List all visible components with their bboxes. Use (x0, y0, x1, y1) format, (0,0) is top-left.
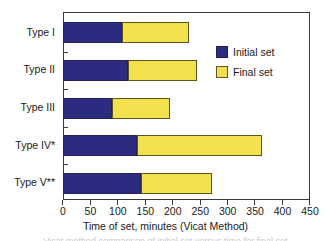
bar-segment-final-set (122, 22, 190, 43)
bar-segment-final-set (137, 135, 262, 156)
x-axis-tick-label: 50 (85, 205, 97, 217)
bar-segment-initial-set (63, 135, 137, 156)
bar-row (63, 60, 197, 81)
x-axis-tick-label: 100 (109, 205, 127, 217)
bar-segment-final-set (128, 60, 197, 81)
bar-row (63, 98, 170, 119)
legend-label: Final set (233, 66, 273, 78)
legend-swatch-final (216, 66, 228, 78)
bar-segment-final-set (141, 173, 212, 194)
bar-segment-final-set (112, 98, 170, 119)
x-axis-tick-label: 0 (60, 205, 66, 217)
bar-row (63, 22, 189, 43)
y-axis-minor-tick (63, 52, 68, 53)
legend-item: Final set (216, 64, 296, 80)
x-axis-tick-label: 450 (301, 205, 319, 217)
y-axis-category-label: Type II (23, 64, 55, 75)
chart-legend: Initial setFinal set (216, 44, 296, 84)
y-axis-category-label: Type IV* (15, 140, 55, 151)
x-axis-tick-label: 350 (246, 205, 264, 217)
legend-swatch-initial (216, 46, 228, 58)
y-axis-category-label: Type III (21, 102, 55, 113)
legend-item: Initial set (216, 44, 296, 60)
x-axis-tick-label: 250 (191, 205, 209, 217)
x-axis-tick-label: 400 (274, 205, 292, 217)
y-axis-category-labels: Type IType IIType IIIType IV*Type V** (0, 12, 60, 200)
caption-sliver: Vicat method comparison of initial set v… (0, 236, 331, 241)
bar-segment-initial-set (63, 98, 112, 119)
bar-chart: Type IType IIType IIIType IV*Type V** In… (0, 0, 331, 241)
x-axis-tick-label: 200 (164, 205, 182, 217)
y-axis-category-label: Type I (26, 27, 55, 38)
y-axis-minor-tick (63, 127, 68, 128)
bar-row (63, 173, 212, 194)
x-axis-title: Time of set, minutes (Vicat Method) (0, 220, 331, 232)
y-axis-minor-tick (63, 89, 68, 90)
bar-row (63, 135, 262, 156)
bar-segment-initial-set (63, 173, 141, 194)
legend-label: Initial set (233, 46, 274, 58)
y-axis-minor-tick (63, 164, 68, 165)
y-axis-category-label: Type V** (14, 177, 55, 188)
bar-segment-initial-set (63, 22, 122, 43)
x-axis-tick-label: 150 (137, 205, 155, 217)
bar-segment-initial-set (63, 60, 128, 81)
x-axis-tick-label: 300 (219, 205, 237, 217)
